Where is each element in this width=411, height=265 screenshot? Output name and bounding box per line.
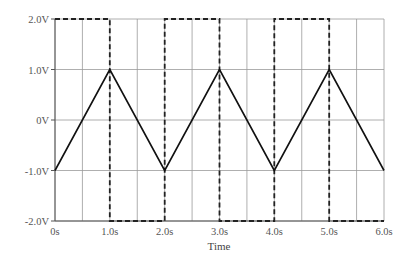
y-axis-ticks: 2.0V1.0V0V-1.0V-2.0V [25, 14, 55, 227]
x-tick-label: 0s [50, 226, 59, 237]
chart: 2.0V1.0V0V-1.0V-2.0V 0s1.0s2.0s3.0s4.0s5… [0, 0, 411, 265]
y-tick-label: 1.0V [28, 65, 49, 76]
y-tick-label: -2.0V [25, 216, 50, 227]
x-axis-title: Time [208, 240, 231, 252]
x-tick-label: 6.0s [375, 226, 392, 237]
y-tick-label: -1.0V [25, 166, 50, 177]
x-axis-ticks: 0s1.0s2.0s3.0s4.0s5.0s6.0s [50, 226, 392, 237]
x-tick-label: 1.0s [101, 226, 118, 237]
x-tick-label: 4.0s [266, 226, 283, 237]
x-tick-label: 2.0s [156, 226, 173, 237]
y-tick-label: 2.0V [28, 14, 49, 25]
x-tick-label: 3.0s [211, 226, 228, 237]
y-tick-label: 0V [36, 115, 49, 126]
x-tick-label: 5.0s [321, 226, 338, 237]
